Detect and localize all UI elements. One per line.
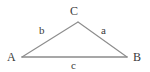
side-label-b: b	[39, 25, 45, 36]
side-label-c: c	[71, 60, 76, 71]
triangle-diagram: A B C b a c	[0, 0, 150, 72]
vertex-label-a: A	[7, 51, 16, 63]
vertex-label-c: C	[70, 5, 78, 17]
triangle-side-b-line	[22, 22, 78, 57]
side-label-a: a	[101, 25, 106, 36]
vertex-label-b: B	[133, 51, 141, 63]
